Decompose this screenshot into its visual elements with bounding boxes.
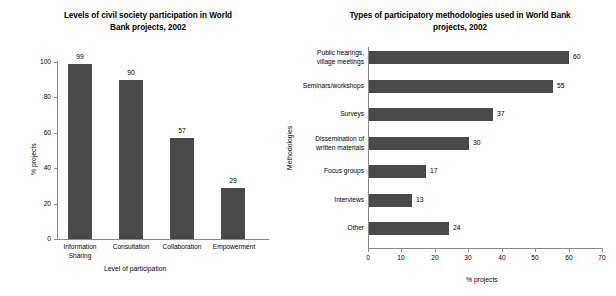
category-label-information-sharing: Information Sharing xyxy=(54,243,106,260)
category-label-focus-groups: Focus groups xyxy=(300,167,364,176)
left-y-tick-0 xyxy=(54,239,57,240)
category-label-public-hearings: Public hearings, village meetings xyxy=(300,49,364,66)
bar-consultation[interactable] xyxy=(119,80,143,239)
left-y-tick-label-40: 40 xyxy=(36,164,51,171)
category-label-interviews: Interviews xyxy=(300,196,364,205)
bar-value-interviews: 13 xyxy=(416,196,424,203)
bar-information-sharing[interactable] xyxy=(68,64,92,239)
bar-seminars-workshops[interactable] xyxy=(369,80,553,93)
bar-value-information-sharing: 99 xyxy=(68,53,92,60)
right-x-tick-60 xyxy=(569,249,570,252)
left-x-axis-title: Level of participation xyxy=(104,265,166,272)
left-y-axis xyxy=(57,61,58,240)
category-label-empowerment: Empowerment xyxy=(207,243,261,252)
bar-focus-groups[interactable] xyxy=(369,165,426,178)
category-label-consultation: Consultation xyxy=(105,243,157,252)
right-x-tick-label-70: 70 xyxy=(592,254,612,261)
category-label-dissemination-written-materials: Dissemination of written materials xyxy=(300,135,364,152)
left-y-tick-label-0: 0 xyxy=(36,235,51,242)
right-x-tick-label-20: 20 xyxy=(425,254,445,261)
bar-value-public-hearings: 60 xyxy=(573,53,581,60)
bar-value-empowerment: 29 xyxy=(221,177,245,184)
figure-page: Levels of civil society participation in… xyxy=(0,0,616,296)
left-y-axis-title: % projects xyxy=(30,143,37,175)
right-x-tick-label-60: 60 xyxy=(559,254,579,261)
right-x-tick-40 xyxy=(502,249,503,252)
bar-other[interactable] xyxy=(369,222,449,235)
right-x-tick-20 xyxy=(435,249,436,252)
bar-value-seminars-workshops: 55 xyxy=(557,82,565,89)
left-x-axis xyxy=(57,239,269,240)
right-x-tick-label-30: 30 xyxy=(458,254,478,261)
bar-value-dissemination-written-materials: 30 xyxy=(473,139,481,146)
right-plot-area: 0 10 20 30 40 50 60 70 60 55 37 30 17 13… xyxy=(300,0,616,296)
bar-value-collaboration: 57 xyxy=(170,127,194,134)
right-x-tick-0 xyxy=(368,249,369,252)
right-x-tick-50 xyxy=(535,249,536,252)
right-chart-panel: Types of participatory methodologies use… xyxy=(300,0,616,296)
right-x-tick-label-0: 0 xyxy=(358,254,378,261)
left-chart-panel: Levels of civil society participation in… xyxy=(0,0,300,296)
bar-value-focus-groups: 17 xyxy=(430,167,438,174)
right-x-tick-10 xyxy=(401,249,402,252)
right-y-axis-title: Methodologies xyxy=(286,126,293,170)
left-plot-area: 100 80 60 40 20 0 99 90 57 29 Informatio… xyxy=(0,0,300,296)
bar-value-consultation: 90 xyxy=(119,69,143,76)
right-x-tick-label-50: 50 xyxy=(525,254,545,261)
left-y-tick-label-20: 20 xyxy=(36,200,51,207)
bar-value-other: 24 xyxy=(453,224,461,231)
category-label-other: Other xyxy=(300,224,364,233)
bar-collaboration[interactable] xyxy=(170,138,194,239)
left-y-tick-80 xyxy=(54,97,57,98)
bar-surveys[interactable] xyxy=(369,108,493,121)
right-x-tick-label-10: 10 xyxy=(391,254,411,261)
bar-empowerment[interactable] xyxy=(221,188,245,239)
left-y-tick-60 xyxy=(54,133,57,134)
bar-public-hearings[interactable] xyxy=(369,51,569,64)
category-label-collaboration: Collaboration xyxy=(156,243,208,252)
bar-dissemination-written-materials[interactable] xyxy=(369,137,469,150)
right-x-tick-label-40: 40 xyxy=(492,254,512,261)
right-x-tick-30 xyxy=(468,249,469,252)
left-y-tick-20 xyxy=(54,204,57,205)
left-y-tick-label-80: 80 xyxy=(36,93,51,100)
bar-value-surveys: 37 xyxy=(497,110,505,117)
left-y-tick-label-60: 60 xyxy=(36,129,51,136)
right-x-tick-70 xyxy=(602,249,603,252)
left-y-tick-label-100: 100 xyxy=(36,58,51,65)
category-label-seminars-workshops: Seminars/workshops xyxy=(300,82,364,91)
right-x-axis xyxy=(368,248,603,249)
left-y-tick-40 xyxy=(54,168,57,169)
category-label-surveys: Surveys xyxy=(300,110,364,119)
bar-interviews[interactable] xyxy=(369,194,412,207)
left-y-tick-100 xyxy=(54,62,57,63)
right-x-axis-title: % projects xyxy=(466,276,498,283)
